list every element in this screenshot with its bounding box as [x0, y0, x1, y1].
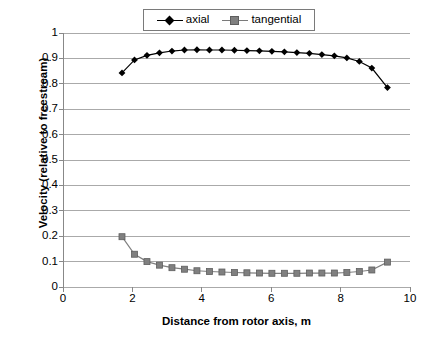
y-axis-ticks: 00.10.20.30.40.50.60.70.80.91 — [10, 33, 58, 287]
square-marker-icon — [306, 270, 312, 276]
y-tick-label: 0.6 — [12, 129, 58, 141]
y-tick-label: 0.5 — [12, 154, 58, 166]
diamond-marker-icon — [181, 47, 188, 54]
x-tick-label: 2 — [117, 293, 147, 305]
square-marker-icon — [119, 234, 125, 240]
diamond-marker-icon — [343, 54, 350, 61]
y-tick-label: 0 — [12, 281, 58, 293]
diamond-marker-icon — [144, 52, 151, 59]
legend-item-axial: axial — [157, 14, 210, 26]
x-axis-ticks: 0246810 — [63, 293, 410, 309]
square-marker-icon — [230, 16, 239, 25]
diamond-marker-icon — [231, 47, 238, 54]
chart-legend: axial tangential — [143, 9, 315, 31]
square-marker-icon — [219, 269, 225, 275]
diamond-marker-icon — [293, 49, 300, 56]
diamond-marker-icon — [256, 47, 263, 54]
legend-line-axial-icon — [157, 15, 183, 26]
square-marker-icon — [181, 266, 187, 272]
x-tick-label: 0 — [48, 293, 78, 305]
diamond-marker-icon — [169, 48, 176, 55]
square-marker-icon — [194, 268, 200, 274]
square-marker-icon — [269, 270, 275, 276]
x-tick-label: 4 — [187, 293, 217, 305]
chart-figure: axial tangential 00.10.20.30.40.50.60.70… — [0, 0, 428, 340]
diamond-marker-icon — [156, 49, 163, 56]
y-axis-title: Velocity (relative to freestream) — [37, 23, 49, 263]
y-tick-label: 0.8 — [12, 78, 58, 90]
diamond-marker-icon — [306, 50, 313, 57]
x-tick-label: 8 — [326, 293, 356, 305]
x-tick-label: 10 — [395, 293, 425, 305]
square-marker-icon — [206, 269, 212, 275]
square-marker-icon — [131, 251, 137, 257]
diamond-marker-icon — [356, 58, 363, 65]
square-marker-icon — [319, 270, 325, 276]
diamond-marker-icon — [318, 51, 325, 58]
diamond-marker-icon — [164, 15, 174, 25]
plot-area — [63, 33, 410, 287]
square-marker-icon — [294, 270, 300, 276]
legend-label-tangential: tangential — [251, 14, 301, 26]
diamond-marker-icon — [206, 47, 213, 54]
series-tangential — [119, 234, 390, 277]
y-tick-label: 0.7 — [12, 103, 58, 115]
y-tick-label: 1 — [12, 27, 58, 39]
square-marker-icon — [331, 270, 337, 276]
y-tick-label: 0.1 — [12, 256, 58, 268]
square-marker-icon — [244, 270, 250, 276]
square-marker-icon — [369, 267, 375, 273]
square-marker-icon — [169, 265, 175, 271]
legend-label-axial: axial — [186, 14, 210, 26]
square-marker-icon — [256, 270, 262, 276]
series-axial — [119, 46, 391, 91]
diamond-marker-icon — [281, 48, 288, 55]
diamond-marker-icon — [219, 47, 226, 54]
y-tick-label: 0.2 — [12, 230, 58, 242]
legend-line-tangential-icon — [222, 15, 248, 26]
diamond-marker-icon — [244, 47, 251, 54]
square-marker-icon — [144, 259, 150, 265]
legend-item-tangential: tangential — [222, 14, 301, 26]
square-marker-icon — [281, 270, 287, 276]
square-marker-icon — [344, 270, 350, 276]
diamond-marker-icon — [194, 46, 201, 53]
diamond-marker-icon — [331, 52, 338, 59]
y-tick-label: 0.4 — [12, 179, 58, 191]
square-marker-icon — [231, 270, 237, 276]
square-marker-icon — [156, 262, 162, 268]
square-marker-icon — [384, 259, 390, 265]
x-tick-label: 6 — [256, 293, 286, 305]
diamond-marker-icon — [268, 48, 275, 55]
x-axis-title: Distance from rotor axis, m — [63, 315, 410, 327]
square-marker-icon — [356, 269, 362, 275]
y-tick-label: 0.3 — [12, 205, 58, 217]
data-series-layer — [63, 33, 410, 287]
y-tick-label: 0.9 — [12, 52, 58, 64]
